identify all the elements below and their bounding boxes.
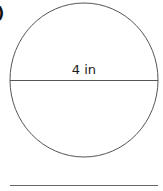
diagram: ) 4 in <box>0 0 163 191</box>
diameter-label: 4 in <box>72 62 96 77</box>
problem-label: ) <box>0 3 4 22</box>
